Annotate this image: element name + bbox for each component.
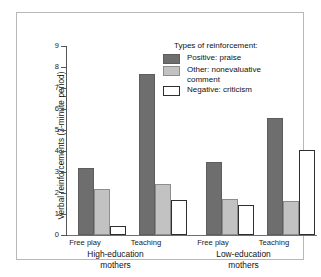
bar [222, 199, 238, 235]
legend-item: Other: nonevaluative comment [163, 65, 315, 84]
legend-items: Positive: praiseOther: nonevaluative com… [163, 53, 315, 96]
category-label: Free play [55, 238, 115, 247]
y-tick-label: 9 [45, 42, 59, 50]
legend-item-label: Positive: praise [187, 53, 241, 63]
category-label: Free play [183, 238, 243, 247]
legend: Types of reinforcement: Positive: praise… [163, 41, 315, 97]
bar [206, 162, 222, 236]
bar [139, 74, 155, 235]
group-label-line1: High-education [66, 249, 166, 260]
group-label-line2: mothers [66, 260, 166, 271]
y-tick-label: 1 [45, 210, 59, 218]
legend-item: Negative: criticism [163, 85, 315, 96]
legend-item-label: Other: nonevaluative comment [187, 65, 261, 84]
group-label-line2: mothers [194, 260, 294, 271]
bar [238, 205, 254, 235]
legend-item-label: Negative: criticism [187, 85, 252, 95]
y-tick-label: 8 [45, 63, 59, 71]
group-label: Low-educationmothers [194, 249, 294, 270]
figure-frame: Verbal reinforcements (3-minute period) … [16, 12, 304, 260]
category-label: Teaching [116, 238, 176, 247]
negative-swatch [163, 86, 180, 96]
legend-item: Positive: praise [163, 53, 315, 64]
group-label-line1: Low-education [194, 249, 294, 260]
bar [78, 168, 94, 235]
y-tick-label: 7 [45, 84, 59, 92]
x-axis-line [66, 235, 317, 236]
y-tick-label: 5 [45, 126, 59, 134]
y-tick-label: 4 [45, 147, 59, 155]
y-tick-label: 3 [45, 168, 59, 176]
y-tick [61, 235, 67, 236]
bar [155, 184, 171, 235]
bar [283, 201, 299, 235]
other-swatch [163, 66, 180, 76]
bar [299, 150, 315, 235]
positive-swatch [163, 54, 180, 64]
bar [110, 226, 126, 235]
y-tick-label: 2 [45, 189, 59, 197]
category-label: Teaching [244, 238, 304, 247]
y-tick-label: 6 [45, 105, 59, 113]
bar [267, 118, 283, 235]
bar [171, 200, 187, 235]
legend-title: Types of reinforcement: [174, 41, 315, 50]
figure: Verbal reinforcements (3-minute period) … [0, 0, 321, 277]
group-label: High-educationmothers [66, 249, 166, 270]
bar [94, 189, 110, 235]
